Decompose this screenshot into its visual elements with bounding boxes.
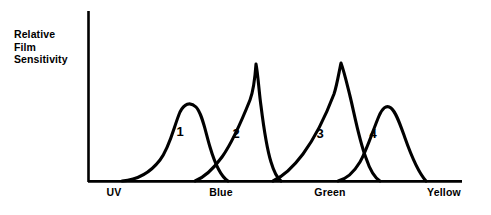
y-axis-caption-line-2: Film (14, 41, 36, 53)
spectral-sensitivity-plot (0, 0, 491, 215)
y-axis-caption: RelativeFilmSensitivity (14, 28, 68, 66)
curve-3 (273, 63, 380, 181)
curve-label-4: 4 (369, 126, 376, 141)
x-tick-label-blue: Blue (209, 186, 233, 198)
y-axis-caption-line-3: Sensitivity (14, 53, 68, 65)
x-tick-label-yellow: Yellow (427, 186, 461, 198)
chart-figure: RelativeFilmSensitivity UV Blue Green Ye… (0, 0, 491, 215)
curve-label-3: 3 (316, 126, 323, 141)
x-tick-label-uv: UV (107, 186, 122, 198)
curve-label-1: 1 (176, 124, 183, 139)
curve-4 (338, 107, 426, 181)
x-tick-label-green: Green (314, 186, 345, 198)
y-axis-caption-line-1: Relative (14, 28, 55, 40)
curve-2 (195, 64, 281, 181)
curve-label-2: 2 (232, 126, 239, 141)
